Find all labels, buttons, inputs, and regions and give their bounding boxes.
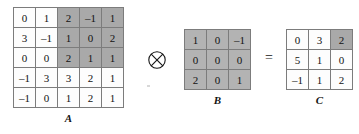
matrix-c-grid: 032510–112 — [286, 29, 353, 90]
matrix-a-row: 00211 — [14, 48, 124, 68]
matrix-a-cell: 2 — [58, 48, 80, 68]
matrix-a-cell: 1 — [102, 88, 124, 108]
matrix-a-cell: 0 — [80, 28, 102, 48]
matrix-a-cell: 1 — [102, 48, 124, 68]
matrix-c: 032510–112 — [286, 29, 353, 90]
matrix-a-cell: 1 — [102, 8, 124, 28]
matrix-b-body: 10–1000201 — [185, 30, 251, 90]
matrix-a-cell: 0 — [14, 48, 36, 68]
matrix-c-label: C — [286, 94, 353, 106]
matrix-c-cell: 3 — [309, 30, 331, 50]
matrix-a-cell: 1 — [102, 68, 124, 88]
matrix-c-row: 510 — [287, 50, 353, 70]
matrix-b-row: 201 — [185, 70, 251, 90]
matrix-a-cell: 1 — [58, 88, 80, 108]
matrix-a-cell: 0 — [36, 48, 58, 68]
matrix-b-cell: 1 — [229, 70, 251, 90]
matrix-a-row: 012–11 — [14, 8, 124, 28]
matrix-c-body: 032510–112 — [287, 30, 353, 90]
convolution-operator-icon — [146, 49, 168, 71]
matrix-b: 10–1000201 — [184, 29, 251, 90]
matrix-a-cell: –1 — [36, 28, 58, 48]
convolution-figure: 012–113–110200211–13321–10121 A 10–10002… — [0, 0, 359, 134]
matrix-b-cell: 0 — [185, 50, 207, 70]
matrix-a-cell: –1 — [80, 8, 102, 28]
matrix-c-cell: 2 — [331, 30, 353, 50]
scan-artifact — [147, 85, 150, 87]
matrix-b-row: 10–1 — [185, 30, 251, 50]
matrix-c-row: 032 — [287, 30, 353, 50]
matrix-c-cell: 1 — [309, 70, 331, 90]
matrix-a-cell: 2 — [80, 88, 102, 108]
matrix-a-cell: 1 — [80, 48, 102, 68]
matrix-a-row: 3–1102 — [14, 28, 124, 48]
matrix-a-row: –13321 — [14, 68, 124, 88]
matrix-b-cell: –1 — [229, 30, 251, 50]
matrix-b-label: B — [184, 94, 251, 106]
matrix-b-row: 000 — [185, 50, 251, 70]
equals-operator-icon: = — [261, 50, 277, 66]
matrix-b-cell: 2 — [185, 70, 207, 90]
matrix-a-label: A — [13, 112, 124, 124]
matrix-c-cell: 2 — [331, 70, 353, 90]
matrix-a-cell: 3 — [14, 28, 36, 48]
matrix-c-row: –112 — [287, 70, 353, 90]
matrix-c-cell: 1 — [309, 50, 331, 70]
matrix-a: 012–113–110200211–13321–10121 — [13, 7, 124, 108]
matrix-a-body: 012–113–110200211–13321–10121 — [14, 8, 124, 108]
matrix-a-cell: 1 — [36, 8, 58, 28]
matrix-a-row: –10121 — [14, 88, 124, 108]
matrix-b-cell: 1 — [185, 30, 207, 50]
matrix-a-grid: 012–113–110200211–13321–10121 — [13, 7, 124, 108]
matrix-c-cell: –1 — [287, 70, 309, 90]
matrix-c-cell: 5 — [287, 50, 309, 70]
matrix-a-cell: 2 — [102, 28, 124, 48]
matrix-b-cell: 0 — [229, 50, 251, 70]
matrix-a-cell: 1 — [58, 28, 80, 48]
matrix-b-cell: 0 — [207, 50, 229, 70]
matrix-a-cell: 0 — [36, 88, 58, 108]
matrix-a-cell: 3 — [36, 68, 58, 88]
matrix-b-grid: 10–1000201 — [184, 29, 251, 90]
matrix-c-cell: 0 — [331, 50, 353, 70]
matrix-c-cell: 0 — [287, 30, 309, 50]
matrix-b-cell: 0 — [207, 30, 229, 50]
matrix-a-cell: –1 — [14, 88, 36, 108]
matrix-a-cell: 2 — [80, 68, 102, 88]
matrix-a-cell: 2 — [58, 8, 80, 28]
matrix-b-cell: 0 — [207, 70, 229, 90]
matrix-a-cell: –1 — [14, 68, 36, 88]
matrix-a-cell: 3 — [58, 68, 80, 88]
matrix-a-cell: 0 — [14, 8, 36, 28]
